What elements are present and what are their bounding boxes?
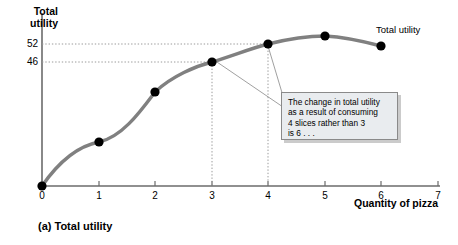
x-tick-label-0: 0 [32,190,52,201]
leader-line-upper [214,60,283,107]
total-utility-figure: Total utility 52 46 0 1 2 3 4 5 6 7 Quan… [0,0,458,245]
data-point [376,41,385,50]
data-point [320,31,329,40]
leader-line-lower [268,46,283,96]
x-tick-label-3: 3 [202,190,222,201]
y-axis-title-line2: utility [30,17,58,29]
data-point [263,39,272,48]
data-point [207,57,216,66]
figure-caption: (a) Total utility [38,220,112,232]
y-tick-label-46: 46 [14,56,38,67]
y-axis-title-line1: Total [34,5,58,17]
y-axis-title: Total utility [14,6,58,29]
x-axis-title: Quantity of pizza [318,198,438,210]
x-tick-label-4: 4 [258,190,278,201]
y-tick-label-52: 52 [14,38,38,49]
annotation-callout: The change in total utility as a result … [281,92,398,140]
data-point [94,137,103,146]
x-tick-label-2: 2 [145,190,165,201]
series-label-total-utility: Total utility [376,24,420,35]
x-tick-label-1: 1 [89,190,109,201]
data-point [150,87,159,96]
annotation-callout-text: The change in total utility as a result … [288,97,392,139]
